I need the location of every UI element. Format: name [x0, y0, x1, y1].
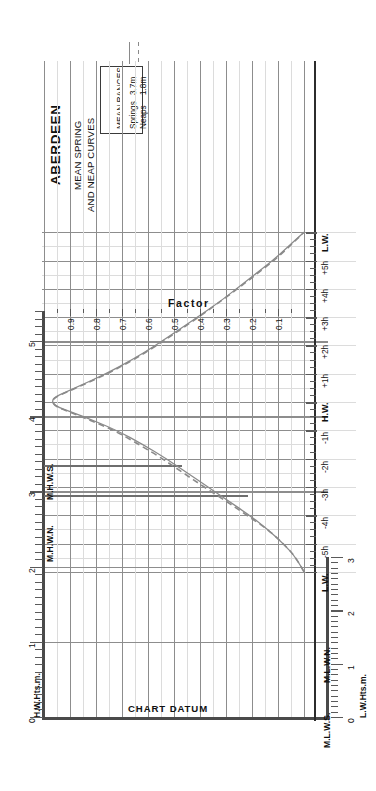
axis-tick-label: 3: [346, 558, 356, 563]
axis-tick-label: -5h: [320, 545, 330, 557]
axis-tick: [35, 552, 43, 553]
axis-tick: [35, 582, 43, 583]
axis-tick-label: 0.3: [222, 318, 232, 330]
axis-tick-label: -3h: [320, 489, 330, 501]
axis-tick: [310, 282, 316, 283]
axis-tick: [35, 311, 43, 312]
axis-tick: [310, 388, 316, 389]
axis-tick: [331, 610, 343, 611]
axis-tick: [310, 331, 316, 332]
axis-tick: [35, 619, 43, 620]
axis-tick-label: 0.8: [92, 318, 102, 330]
chart-datum-label: CHART DATUM: [128, 703, 208, 714]
axis-tick: [35, 709, 43, 710]
mhws-label: M.H.W.S.: [45, 464, 55, 500]
axis-tick: [83, 309, 84, 313]
axis-tick: [331, 626, 338, 627]
axis-tick: [331, 642, 338, 643]
axis-tick: [35, 386, 43, 387]
grid-line-h: [315, 459, 356, 460]
grid-line-v: [70, 61, 71, 717]
axis-tick: [310, 452, 316, 453]
axis-tick: [310, 529, 316, 530]
axis-tick: [310, 275, 316, 276]
axis-tick: [35, 454, 43, 455]
axis-tick-label: 2: [27, 568, 37, 573]
axis-tick: [310, 508, 316, 509]
axis-tick: [35, 604, 43, 605]
grid-line-v: [239, 61, 240, 717]
axis-tick: [35, 664, 43, 665]
grid-line-v: [226, 61, 227, 717]
legend-neaps-sample: [138, 42, 139, 64]
axis-tick: [265, 309, 266, 313]
axis-tick: [310, 416, 316, 417]
legend-springs-sample: [129, 42, 130, 64]
axis-tick: [35, 612, 43, 613]
axis-tick: [35, 597, 43, 598]
legend-neaps-value: 1.8m: [139, 77, 148, 95]
axis-tick: [310, 239, 316, 240]
grid-line-v: [252, 61, 253, 717]
axis-tick-label: L.W.: [320, 234, 330, 253]
axis-tick: [310, 558, 316, 559]
legend-springs-value: 3.7m: [129, 77, 138, 95]
axis-tick: [310, 501, 316, 502]
axis-tick: [310, 466, 316, 467]
axis-tick: [35, 702, 43, 703]
axis-tick-label: 0.7: [118, 318, 128, 330]
height-rule-left: [44, 491, 328, 493]
axis-tick: [310, 253, 316, 254]
axis-tick: [174, 309, 175, 316]
axis-tick: [306, 487, 317, 489]
axis-tick: [310, 536, 316, 537]
axis-tick: [226, 309, 227, 316]
axis-tick: [310, 473, 316, 474]
axis-tick: [135, 309, 136, 313]
axis-tick: [35, 574, 43, 575]
axis-tick: [35, 371, 43, 372]
axis-tick: [70, 309, 71, 316]
time-axis-line: [314, 61, 316, 721]
legend-springs-label: Springs: [129, 101, 138, 129]
axis-tick: [109, 309, 110, 313]
axis-tick: [331, 637, 338, 638]
axis-tick: [252, 309, 253, 316]
axis-tick: [35, 379, 43, 380]
axis-tick: [331, 573, 338, 574]
axis-tick: [35, 356, 43, 357]
axis-tick: [331, 605, 338, 606]
axis-tick: [306, 572, 317, 574]
grid-line-v: [200, 61, 201, 717]
axis-tick-label: +1h: [320, 373, 330, 387]
axis-tick: [310, 494, 316, 495]
axis-tick: [213, 309, 214, 313]
axis-tick: [35, 544, 43, 545]
axis-tick: [148, 309, 149, 316]
grid-line-v: [213, 61, 214, 717]
axis-tick-label: +3h: [320, 317, 330, 331]
axis-tick: [310, 268, 316, 269]
axis-tick: [35, 537, 43, 538]
axis-tick: [35, 679, 43, 680]
axis-tick: [331, 706, 338, 707]
axis-tick: [278, 309, 279, 316]
axis-tick-label: 0: [346, 718, 356, 723]
axis-tick: [35, 349, 43, 350]
axis-tick-label: 1: [346, 665, 356, 670]
height-rule-left: [44, 642, 328, 644]
legend-neaps-label: Neaps: [139, 105, 148, 129]
axis-tick: [310, 423, 316, 424]
axis-tick: [331, 685, 338, 686]
axis-tick: [35, 334, 43, 335]
grid-line-v: [135, 61, 136, 717]
axis-tick: [331, 664, 343, 665]
axis-tick-label: +2h: [320, 345, 330, 359]
axis-tick: [331, 594, 338, 595]
axis-tick: [306, 345, 317, 347]
axis-tick: [331, 632, 338, 633]
axis-tick: [331, 674, 338, 675]
grid-line-v: [122, 61, 123, 717]
axis-tick: [310, 381, 316, 382]
grid-line-v: [174, 61, 175, 717]
